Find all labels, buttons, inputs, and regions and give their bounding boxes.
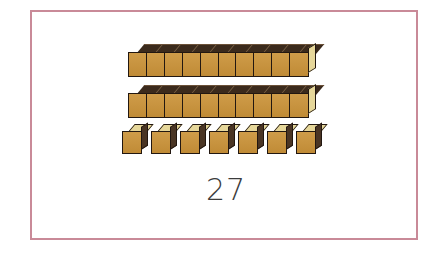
rod-segment	[272, 53, 290, 76]
rod-segment	[201, 94, 219, 117]
ones-row	[122, 124, 332, 160]
unit-cube[interactable]	[209, 124, 237, 158]
worksheet-card: 27	[0, 0, 436, 259]
rod-segment	[201, 53, 219, 76]
rod-segment	[147, 94, 165, 117]
rod-segment	[129, 94, 147, 117]
rod-segment	[236, 94, 254, 117]
rod-segment	[129, 53, 147, 76]
unit-cube[interactable]	[122, 124, 150, 158]
tens-rod-2[interactable]	[128, 85, 328, 119]
tens-rod-1[interactable]	[128, 44, 328, 78]
rod-segment	[254, 94, 272, 117]
answer-number: 27	[32, 172, 420, 207]
rod-segment	[183, 53, 201, 76]
cube-front-face	[180, 131, 200, 154]
cube-front-face	[296, 131, 316, 154]
rod-segment	[183, 94, 201, 117]
rod-segment	[236, 53, 254, 76]
rod-segment	[165, 53, 183, 76]
unit-cube[interactable]	[296, 124, 324, 158]
cube-side-face	[170, 122, 177, 150]
cube-front-face	[151, 131, 171, 154]
cube-side-face	[286, 122, 293, 150]
rod-front-faces	[128, 93, 309, 118]
rod-segment	[165, 94, 183, 117]
rod-end-cap	[308, 43, 316, 73]
rod-segment	[290, 53, 308, 76]
rod-segment	[219, 53, 237, 76]
cube-side-face	[228, 122, 235, 150]
rod-segment	[147, 53, 165, 76]
unit-cube[interactable]	[180, 124, 208, 158]
cube-front-face	[267, 131, 287, 154]
cube-front-face	[122, 131, 142, 154]
rod-front-faces	[128, 52, 309, 77]
rod-segment	[290, 94, 308, 117]
cube-side-face	[257, 122, 264, 150]
cube-side-face	[141, 122, 148, 150]
unit-cube[interactable]	[151, 124, 179, 158]
cube-side-face	[315, 122, 322, 150]
base-ten-blocks-area	[32, 12, 420, 167]
cube-front-face	[238, 131, 258, 154]
unit-cube[interactable]	[267, 124, 295, 158]
rod-segment	[272, 94, 290, 117]
rod-segment	[219, 94, 237, 117]
unit-cube[interactable]	[238, 124, 266, 158]
cube-front-face	[209, 131, 229, 154]
worksheet-border-frame: 27	[30, 10, 418, 240]
rod-segment	[254, 53, 272, 76]
cube-side-face	[199, 122, 206, 150]
rod-end-cap	[308, 84, 316, 114]
